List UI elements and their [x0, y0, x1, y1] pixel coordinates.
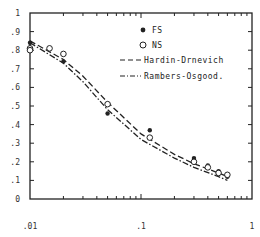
legend-ns-label: NS [152, 41, 163, 50]
ns-data-point [61, 51, 67, 57]
ns-data-point [191, 159, 197, 165]
legend-fs-marker-icon [141, 28, 146, 33]
fs-data-point [105, 111, 109, 115]
y-tick-label: .3 [10, 139, 20, 148]
x-tick-label: .01 [23, 222, 38, 231]
x-tick-label: .1 [136, 222, 146, 231]
ns-data-point [105, 101, 111, 107]
legend-fs-label: FS [152, 26, 163, 35]
ns-data-point [225, 172, 231, 178]
y-tick-label: .4 [10, 121, 20, 130]
y-tick-label: .2 [10, 158, 20, 167]
ns-data-point [47, 46, 53, 52]
y-tick-label: .9 [10, 28, 20, 37]
x-axis-labels: .01.11 [23, 222, 255, 231]
fs-data-point [148, 128, 152, 132]
y-tick-label: .7 [10, 65, 20, 74]
fs-data-point [28, 41, 32, 45]
y-tick-label: .8 [10, 46, 20, 55]
y-tick-label: .5 [10, 102, 20, 111]
legend-ramberg-label: Rambers-Osgood. [144, 72, 224, 81]
ns-data-point [205, 165, 211, 171]
y-tick-label: .1 [10, 176, 20, 185]
y-tick-label: 0 [15, 195, 20, 204]
chart: 0.1.2.3.4.5.6.7.8.91 .01.11 FS NS Hardin… [0, 0, 260, 237]
y-axis-labels: 0.1.2.3.4.5.6.7.8.91 [10, 9, 20, 204]
ns-data-point [147, 135, 153, 141]
legend: FS NS Hardin-Drnevich Rambers-Osgood. [120, 26, 224, 81]
y-tick-label: .6 [10, 83, 20, 92]
x-tick-label: 1 [250, 222, 255, 231]
ns-data-point [27, 47, 33, 53]
fs-data-point [61, 59, 65, 63]
y-tick-label: 1 [15, 9, 20, 18]
legend-hardin-label: Hardin-Drnevich [144, 56, 224, 65]
ns-data-point [216, 170, 222, 176]
legend-ns-marker-icon [140, 42, 146, 48]
